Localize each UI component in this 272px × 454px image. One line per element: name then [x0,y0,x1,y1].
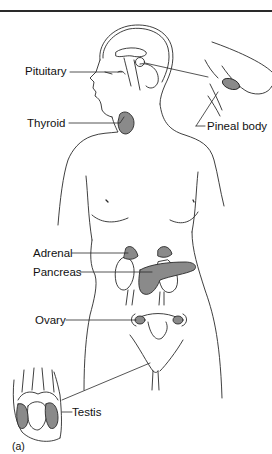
head-outline [90,25,173,117]
label-pineal-body: Pineal body [207,120,267,132]
label-adrenal: Adrenal [33,247,73,259]
leader-lines [62,63,218,412]
label-pituitary: Pituitary [25,65,67,77]
abdominal-glands [115,246,195,305]
testis-inset [13,368,61,441]
ovary-uterus [131,314,186,340]
label-ovary: Ovary [35,314,66,326]
figure-caption: (a) [12,440,25,452]
label-thyroid: Thyroid [27,117,65,129]
label-pancreas: Pancreas [33,266,82,278]
label-testis: Testis [72,406,101,418]
torso-outline [58,104,224,398]
pineal-inset [205,42,272,116]
